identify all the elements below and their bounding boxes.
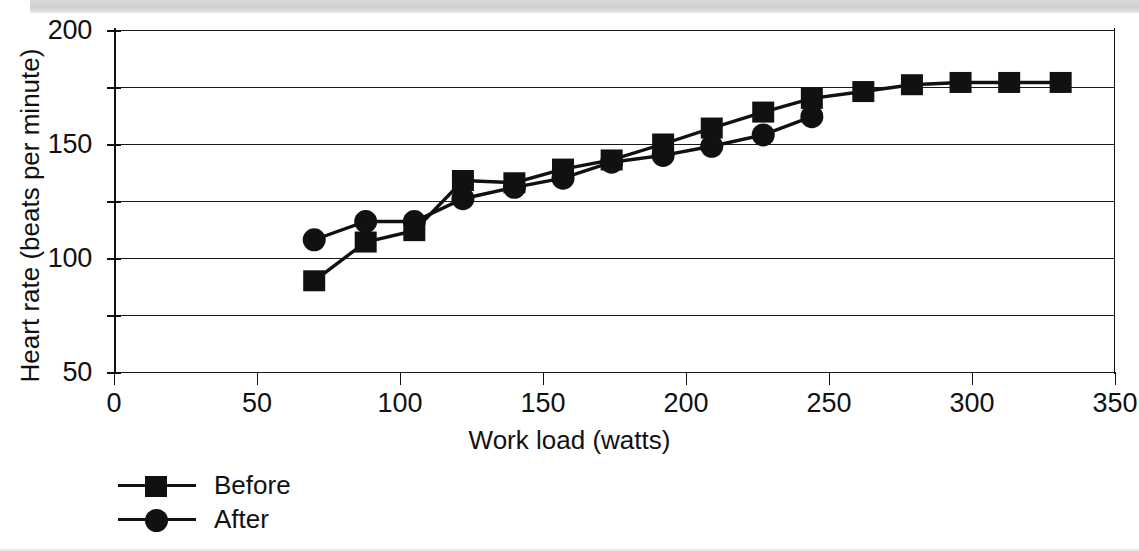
y-tick-200 — [107, 30, 121, 32]
y-tick-75 — [107, 315, 121, 317]
legend-label-after: After — [214, 504, 269, 535]
data-point-before — [950, 72, 972, 93]
x-tick-0 — [114, 372, 115, 385]
x-axis-title: Work load (watts) — [0, 425, 1139, 456]
data-point-after — [403, 210, 426, 233]
legend-item-after[interactable]: After — [118, 502, 291, 536]
data-point-before — [355, 232, 377, 253]
x-tick-label-350: 350 — [1092, 388, 1137, 419]
data-point-after — [451, 187, 474, 210]
data-point-after — [700, 135, 723, 158]
data-point-before — [752, 102, 774, 123]
x-tick-50 — [257, 372, 258, 385]
x-tick-label-50: 50 — [242, 388, 272, 419]
data-series-group — [114, 30, 1115, 372]
y-tick-150 — [107, 144, 121, 146]
legend-label-before: Before — [214, 470, 291, 501]
x-tick-150 — [543, 372, 544, 385]
series-after — [303, 105, 824, 251]
data-point-after — [552, 167, 575, 190]
gridline-y-50 — [114, 372, 1115, 373]
x-tick-label-300: 300 — [949, 388, 994, 419]
scan-artifact-band — [30, 0, 1139, 13]
x-tick-label-100: 100 — [377, 388, 422, 419]
chart-legend: BeforeAfter — [118, 468, 291, 536]
x-tick-label-200: 200 — [663, 388, 708, 419]
legend-item-before[interactable]: Before — [118, 468, 291, 502]
y-axis-title: Heart rate (beats per minute) — [15, 36, 46, 396]
x-tick-label-150: 150 — [520, 388, 565, 419]
legend-marker-circle-icon — [118, 507, 196, 531]
data-point-after — [354, 210, 377, 233]
y-tick-175 — [107, 87, 121, 89]
x-tick-label-0: 0 — [106, 388, 121, 419]
series-before — [303, 72, 1071, 291]
data-point-after — [503, 176, 526, 199]
data-point-after — [303, 228, 326, 251]
chart-figure: 50100150200 050100150200250300350 Work l… — [0, 0, 1139, 551]
legend-marker-square-icon — [118, 473, 196, 497]
data-point-before — [1050, 72, 1072, 93]
data-point-after — [652, 144, 675, 167]
x-tick-label-250: 250 — [806, 388, 851, 419]
data-point-after — [600, 151, 623, 174]
data-point-before — [852, 81, 874, 102]
x-tick-350 — [1115, 372, 1116, 385]
x-tick-250 — [829, 372, 830, 385]
data-point-before — [998, 72, 1020, 93]
y-tick-125 — [107, 201, 121, 203]
x-tick-200 — [686, 372, 687, 385]
data-point-before — [901, 74, 923, 95]
data-point-after — [752, 123, 775, 146]
plot-area — [114, 30, 1115, 372]
x-tick-100 — [400, 372, 401, 385]
series-line-before — [314, 82, 1060, 280]
x-tick-300 — [972, 372, 973, 385]
data-point-after — [800, 105, 823, 128]
data-point-before — [303, 270, 325, 291]
y-tick-100 — [107, 258, 121, 260]
